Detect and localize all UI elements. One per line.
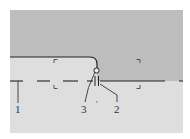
diagram-figure: 1 3 2 ' xyxy=(0,0,190,139)
label-1: 1 xyxy=(15,103,21,115)
label-3: 3 xyxy=(81,103,87,115)
label-2: 2 xyxy=(114,103,120,115)
